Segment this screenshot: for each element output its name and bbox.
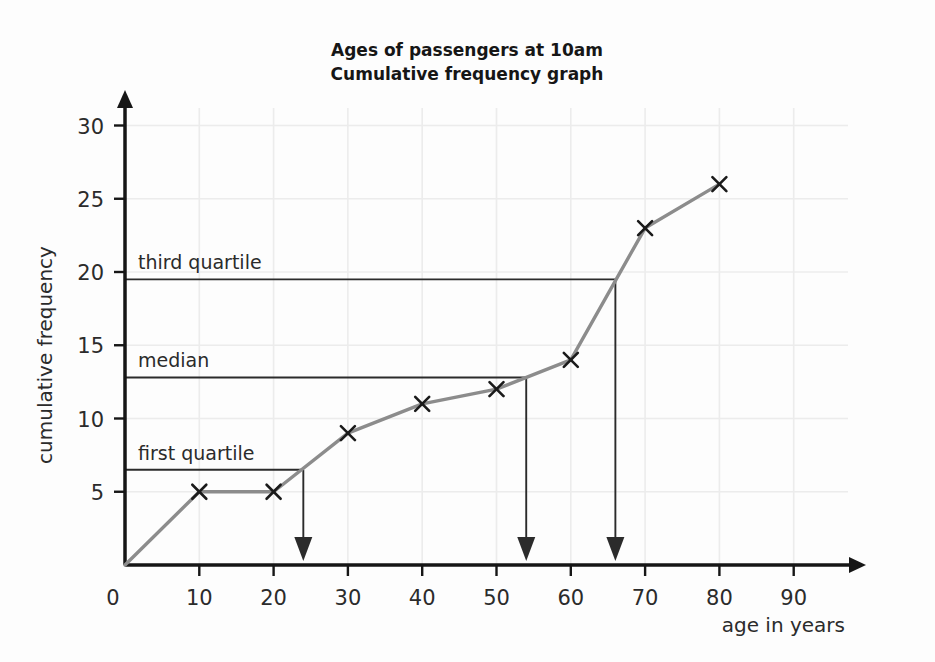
y-axis-title: cumulative frequency bbox=[33, 246, 57, 464]
y-tick-label: 5 bbox=[91, 481, 104, 505]
y-tick-label: 25 bbox=[77, 188, 104, 212]
y-tick-label: 20 bbox=[77, 261, 104, 285]
chart-title-line-1: Ages of passengers at 10am bbox=[331, 40, 603, 60]
x-tick-label: 40 bbox=[409, 586, 436, 610]
x-tick-label: 60 bbox=[557, 586, 584, 610]
annotation-label-first-quartile: first quartile bbox=[138, 442, 254, 464]
chart-title-line-2: Cumulative frequency graph bbox=[331, 64, 604, 84]
chart-canvas: third quartilemedianfirst quartile 01020… bbox=[0, 0, 935, 662]
x-tick-label: 0 bbox=[106, 586, 119, 610]
x-tick-label: 70 bbox=[632, 586, 659, 610]
x-tick-label: 90 bbox=[780, 586, 807, 610]
y-tick-label: 30 bbox=[77, 115, 104, 139]
cumulative-frequency-chart: third quartilemedianfirst quartile 01020… bbox=[0, 0, 935, 662]
annotation-label-third-quartile: third quartile bbox=[138, 251, 262, 273]
x-tick-label: 30 bbox=[335, 586, 362, 610]
x-tick-label: 80 bbox=[706, 586, 733, 610]
y-tick-label: 10 bbox=[77, 408, 104, 432]
annotation-label-median: median bbox=[138, 349, 209, 371]
x-axis-title: age in years bbox=[722, 613, 845, 637]
x-tick-label: 20 bbox=[260, 586, 287, 610]
x-tick-label: 50 bbox=[483, 586, 510, 610]
y-tick-label: 15 bbox=[77, 334, 104, 358]
x-tick-label: 10 bbox=[186, 586, 213, 610]
chart-background bbox=[0, 0, 935, 662]
